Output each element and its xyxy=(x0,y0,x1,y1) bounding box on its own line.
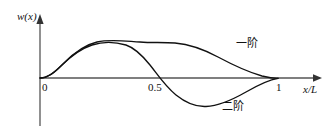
y-axis-label: w(x) xyxy=(17,11,37,22)
x-tick-label-0-5: 0.5 xyxy=(148,82,162,93)
y-axis xyxy=(36,14,43,126)
x-axis-label: x/L xyxy=(303,84,317,95)
x-tick-label-1: 1 xyxy=(276,82,282,93)
curve-label-second-order: 二阶 xyxy=(222,101,244,112)
plot-canvas xyxy=(0,0,334,130)
x-tick-label-0: 0 xyxy=(42,82,48,93)
mode-shape-figure: w(x) x/L 0 0.5 1 一阶 二阶 xyxy=(0,0,334,130)
curve-label-first-order: 一阶 xyxy=(236,38,258,49)
